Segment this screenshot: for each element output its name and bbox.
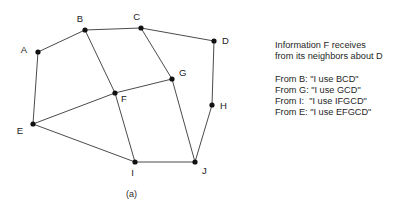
figure-root: ABCDEFGHIJ (a) Information F receives fr…	[0, 0, 407, 212]
neighbor-message-list: From B: "I use BCD"From G: "I use GCD"Fr…	[275, 74, 407, 119]
graph-node-dot-c[interactable]	[138, 25, 143, 30]
graph-node-j[interactable]: J	[192, 159, 207, 175]
neighbor-message-line: From G: "I use GCD"	[275, 85, 407, 96]
graph-edge-a-b	[38, 30, 85, 52]
graph-node-a[interactable]: A	[21, 44, 41, 55]
neighbor-message-line: From E: "I use EFGCD"	[275, 107, 407, 118]
graph-node-label-a: A	[21, 44, 28, 55]
graph-node-dot-d[interactable]	[211, 38, 216, 43]
graph-node-dot-j[interactable]	[192, 159, 197, 164]
graph-node-e[interactable]: E	[17, 121, 36, 135]
graph-edge-a-e	[33, 52, 38, 124]
graph-edge-h-j	[195, 105, 212, 162]
graph-node-dot-i[interactable]	[132, 159, 137, 164]
graph-edge-c-g	[141, 28, 172, 79]
graph-edge-b-f	[85, 30, 115, 93]
neighbor-message-line: From B: "I use BCD"	[275, 74, 407, 85]
graph-edge-f-g	[115, 79, 172, 93]
graph-node-label-j: J	[202, 165, 207, 176]
graph-node-label-e: E	[17, 125, 23, 136]
graph-node-dot-g[interactable]	[169, 76, 174, 81]
graph-edge-c-d	[141, 28, 214, 41]
graph-node-label-b: B	[77, 13, 83, 24]
graph-node-group: ABCDEFGHIJ	[17, 11, 229, 178]
panel-a-caption: (a)	[126, 189, 137, 199]
info-heading-line-1: Information F receives	[275, 40, 407, 51]
graph-edge-e-f	[33, 93, 115, 124]
graph-node-i[interactable]: I	[131, 159, 137, 177]
graph-edge-e-i	[33, 124, 135, 162]
graph-node-label-i: I	[131, 167, 134, 178]
graph-diagram: ABCDEFGHIJ	[0, 0, 250, 190]
graph-edge-d-h	[212, 41, 214, 105]
info-heading-line-2: from its neighbors about D	[275, 51, 407, 62]
graph-edge-b-c	[85, 28, 141, 30]
graph-edge-g-j	[172, 79, 195, 162]
panel-a-graph: ABCDEFGHIJ (a)	[0, 0, 250, 212]
graph-node-label-d: D	[222, 35, 229, 46]
graph-node-dot-h[interactable]	[209, 102, 214, 107]
graph-node-label-f: F	[121, 93, 127, 104]
graph-node-g[interactable]: G	[169, 67, 186, 82]
graph-node-label-g: G	[179, 67, 186, 78]
neighbor-message-line: From I: "I use IFGCD"	[275, 96, 407, 107]
graph-node-label-c: C	[133, 11, 140, 22]
graph-node-dot-a[interactable]	[35, 49, 40, 54]
graph-node-f[interactable]: F	[112, 90, 127, 103]
graph-node-label-h: H	[220, 100, 227, 111]
graph-node-dot-f[interactable]	[112, 90, 117, 95]
info-text-block: Information F receives from its neighbor…	[275, 40, 407, 119]
panel-b-info: Information F receives from its neighbor…	[250, 0, 407, 212]
graph-node-b[interactable]: B	[77, 13, 88, 33]
graph-node-dot-e[interactable]	[30, 121, 35, 126]
graph-node-dot-b[interactable]	[82, 27, 87, 32]
graph-node-c[interactable]: C	[133, 11, 143, 31]
